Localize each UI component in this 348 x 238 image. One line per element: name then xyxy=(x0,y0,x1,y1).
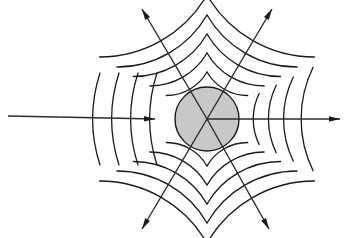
ray-arrowhead xyxy=(329,116,340,122)
ray-line xyxy=(207,9,272,119)
scattering-diagram xyxy=(0,0,348,238)
incident-wavefront-arc xyxy=(112,73,119,165)
scattered-wavefront-arc xyxy=(207,162,281,205)
ray-arrowhead xyxy=(261,218,269,229)
scattered-wavefront-arc xyxy=(133,34,207,77)
scattered-wavefront-arc xyxy=(133,162,207,205)
ray-line xyxy=(8,116,155,119)
scattered-wavefront-arc xyxy=(207,15,297,67)
scattering-canvas xyxy=(0,0,348,238)
scattered-wavefront-arc xyxy=(117,171,207,223)
incident-wavefront-arc xyxy=(93,73,100,165)
ray-line xyxy=(142,119,207,229)
scattered-wavefront-arc xyxy=(207,171,297,223)
ray-arrowhead xyxy=(264,9,272,20)
scattered-wavefront-arc xyxy=(207,34,281,77)
ray-arrowhead xyxy=(142,218,150,229)
direction-rays xyxy=(8,9,340,229)
ray-line xyxy=(207,119,269,229)
scattered-wavefront-arc xyxy=(207,181,314,238)
ray-arrowhead xyxy=(142,9,150,20)
ray-line xyxy=(142,9,207,119)
scattered-wavefront-arc xyxy=(117,15,207,67)
